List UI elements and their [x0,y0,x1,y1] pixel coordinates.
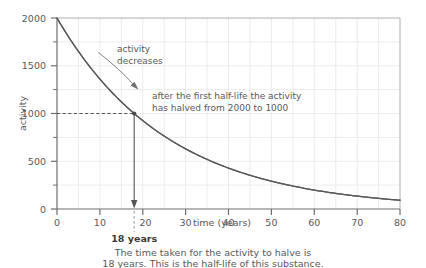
x-tick-label-10: 10 [94,217,106,228]
half-life-decay-figure: 2000 1500 1000 500 0 0 10 20 30 40 50 60… [0,0,426,268]
x-tick-label-20: 20 [139,217,151,228]
half-life-marker-label: 18 years [111,233,157,244]
x-tick-label-50: 50 [265,217,277,228]
activity-time-chart: 2000 1500 1000 500 0 0 10 20 30 40 50 60… [0,0,426,268]
caption-line-2: 18 years. This is the half-life of this … [102,258,323,268]
annotation-halflife-line1: after the first half-life the activity [152,91,302,101]
y-tick-label-2000: 2000 [22,13,46,24]
x-tick-label-30: 30 [180,217,192,228]
y-axis-major-ticks [51,18,57,209]
annotation-decrease-line1: activity [117,44,151,54]
annotation-halflife-line2: has halved from 2000 to 1000 [152,103,289,113]
x-tick-label-0: 0 [54,217,60,228]
y-axis-title: activity [17,96,28,131]
half-life-point-marker [132,111,136,115]
annotation-decrease-line2: decreases [117,56,163,66]
x-tick-label-60: 60 [308,217,320,228]
guide-arrowhead-icon [131,200,137,209]
x-tick-label-70: 70 [351,217,363,228]
caption-line-1: The time taken for the activity to halve… [114,247,312,258]
y-tick-label-0: 0 [40,204,46,215]
y-tick-label-500: 500 [28,156,46,167]
x-axis-major-ticks [57,209,400,215]
x-axis-title: time (years) [193,217,251,228]
x-tick-label-80: 80 [394,217,406,228]
y-tick-label-1500: 1500 [22,60,46,71]
